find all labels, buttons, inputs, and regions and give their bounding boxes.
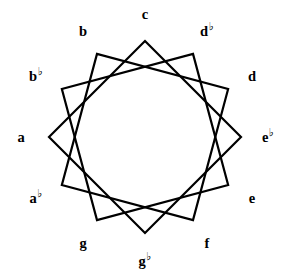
note-label-d: d bbox=[248, 69, 256, 84]
note-letter: e bbox=[249, 190, 255, 206]
note-letter: a bbox=[17, 129, 24, 145]
note-label-f: f bbox=[205, 236, 210, 251]
flat-sign-icon: ♭ bbox=[146, 250, 151, 262]
note-label-gb: g♭ bbox=[139, 254, 152, 269]
note-label-eb: e♭ bbox=[262, 130, 274, 145]
flat-sign-icon: ♭ bbox=[38, 65, 43, 77]
square-db bbox=[62, 54, 228, 220]
note-letter: e bbox=[262, 129, 268, 145]
note-label-db: d♭ bbox=[200, 24, 214, 39]
polygon-group bbox=[49, 41, 241, 233]
note-label-b: b bbox=[79, 24, 87, 39]
note-letter: b bbox=[29, 68, 37, 84]
note-label-c: c bbox=[142, 7, 148, 22]
note-letter: g bbox=[79, 235, 86, 251]
note-letter: d bbox=[200, 23, 208, 39]
note-letter: f bbox=[205, 235, 210, 251]
note-label-a: a bbox=[17, 130, 24, 145]
flat-sign-icon: ♭ bbox=[269, 126, 274, 138]
note-letter: c bbox=[142, 6, 148, 22]
note-label-g: g bbox=[79, 236, 86, 251]
square-c bbox=[49, 41, 241, 233]
flat-sign-icon: ♭ bbox=[37, 187, 42, 199]
note-label-ab: a♭ bbox=[30, 191, 43, 206]
note-letter: d bbox=[248, 68, 256, 84]
note-letter: b bbox=[79, 23, 87, 39]
star-polygon-graphic bbox=[0, 0, 290, 274]
note-letter: g bbox=[139, 253, 146, 269]
chromatic-circle-diagram: cd♭de♭efg♭ga♭ab♭b bbox=[0, 0, 290, 274]
flat-sign-icon: ♭ bbox=[209, 20, 214, 32]
note-label-e: e bbox=[249, 191, 255, 206]
square-d bbox=[62, 54, 228, 220]
note-letter: a bbox=[30, 190, 37, 206]
note-label-bb: b♭ bbox=[29, 69, 43, 84]
